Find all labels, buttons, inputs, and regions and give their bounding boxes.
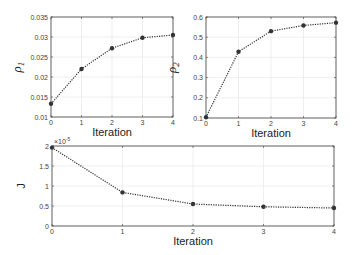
x-tick-label: 1 (121, 228, 125, 235)
x-tick-label: 0 (49, 119, 53, 126)
y-multiplier: ×10-5 (54, 136, 71, 145)
x-tick-label: 1 (80, 119, 84, 126)
x-tick-label: 4 (171, 119, 175, 126)
chart-canvas: 012340.010.0150.020.0250.030.035Iteratio… (0, 0, 356, 255)
x-tick-label: 1 (237, 120, 241, 127)
x-tick-label: 2 (269, 120, 273, 127)
data-point (171, 33, 175, 37)
data-point (49, 102, 53, 106)
data-point (110, 46, 114, 50)
data-point (334, 20, 338, 24)
x-tick-label: 0 (204, 120, 208, 127)
x-tick-label: 0 (50, 228, 54, 235)
rho2-plot: 012340.10.20.30.40.50.6Iterationρ2 (164, 14, 338, 140)
data-point (79, 67, 83, 71)
y-tick-label: 0.6 (193, 14, 203, 21)
y-tick-label: 0.015 (30, 94, 48, 101)
rho1-plot: 012340.010.0150.020.0250.030.035Iteratio… (9, 14, 175, 139)
x-axis-label: Iteration (92, 126, 132, 138)
y-tick-label: 0.2 (193, 94, 203, 101)
y-axis-label: J (15, 183, 27, 189)
y-tick-label: 2 (45, 143, 49, 150)
data-point (269, 29, 273, 33)
x-tick-label: 3 (262, 228, 266, 235)
data-point (191, 202, 195, 206)
y-axis-label: ρ2 (164, 62, 181, 74)
x-tick-label: 3 (141, 119, 145, 126)
x-axis-label: Iteration (173, 235, 213, 247)
data-point (236, 50, 240, 54)
y-tick-label: 0.01 (34, 114, 48, 121)
x-tick-label: 4 (332, 228, 336, 235)
data-point (120, 190, 124, 194)
y-tick-label: 0.5 (193, 34, 203, 41)
y-tick-label: 0.4 (193, 54, 203, 61)
data-point (301, 23, 305, 27)
data-point (50, 145, 54, 149)
y-tick-label: 1 (45, 183, 49, 190)
y-tick-label: 0 (45, 223, 49, 230)
y-tick-label: 0.3 (193, 74, 203, 81)
data-point (332, 206, 336, 210)
y-axis-label: ρ1 (9, 62, 26, 74)
y-tick-label: 0.02 (34, 74, 48, 81)
data-point (140, 36, 144, 40)
data-point (261, 205, 265, 209)
j-plot: 0123400.511.52IterationJ×10-5 (15, 136, 336, 247)
y-tick-label: 1.5 (39, 163, 49, 170)
x-tick-label: 3 (302, 120, 306, 127)
x-tick-label: 2 (110, 119, 114, 126)
y-tick-label: 0.035 (30, 14, 48, 21)
y-tick-label: 0.1 (193, 115, 203, 122)
data-point (204, 115, 208, 119)
x-axis-label: Iteration (251, 127, 291, 139)
y-tick-label: 0.025 (30, 54, 48, 61)
y-tick-label: 0.5 (39, 203, 49, 210)
y-tick-label: 0.03 (34, 34, 48, 41)
x-tick-label: 2 (191, 228, 195, 235)
x-tick-label: 4 (334, 120, 338, 127)
